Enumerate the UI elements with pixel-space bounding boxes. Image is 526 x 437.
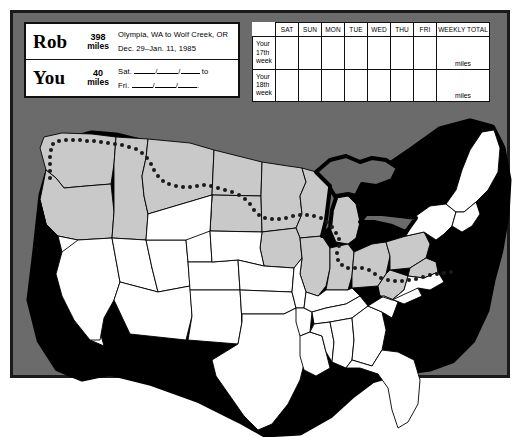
end-day-blank[interactable]: [155, 87, 176, 88]
row-label-week-17: Your 17th week: [253, 37, 276, 70]
cell-week17-thu[interactable]: [391, 37, 414, 70]
weekly-mileage-log: SAT SUN MON TUE WED THU FRI WEEKLY TOTAL…: [252, 22, 490, 102]
cell-week17-sat[interactable]: [276, 37, 299, 70]
rob-name: Rob: [33, 31, 67, 53]
cell-week17-tue[interactable]: [345, 37, 368, 70]
cell-week17-mon[interactable]: [322, 37, 345, 70]
slash-3: /: [153, 81, 155, 90]
week-17-line-1: Your: [256, 40, 270, 47]
rob-trip-details: Olympia, WA to Wolf Creek, OR Dec. 29–Ja…: [118, 24, 233, 59]
rider-info-box: Rob 398 miles Olympia, WA to Wolf Creek,…: [24, 22, 240, 98]
cell-week17-wed[interactable]: [368, 37, 391, 70]
cell-week18-fri[interactable]: [414, 69, 437, 102]
col-header-tue: TUE: [345, 23, 368, 37]
cell-week18-mon[interactable]: [322, 69, 345, 102]
rob-route: Olympia, WA to Wolf Creek, OR: [118, 30, 233, 39]
rob-row: Rob 398 miles Olympia, WA to Wolf Creek,…: [26, 24, 238, 60]
table-row: Your 17th week miles: [253, 37, 490, 70]
start-day-blank[interactable]: [157, 73, 178, 74]
end-month-blank[interactable]: [132, 87, 153, 88]
row-label-week-18: Your 18th week: [253, 69, 276, 102]
cell-week17-sun[interactable]: [299, 37, 322, 70]
end-year-blank[interactable]: [178, 87, 197, 88]
cell-week18-tue[interactable]: [345, 69, 368, 102]
col-header-mon: MON: [322, 23, 345, 37]
cell-week17-total[interactable]: miles: [437, 37, 490, 70]
rob-distance: 398 miles: [83, 31, 113, 51]
log-header-row: SAT SUN MON TUE WED THU FRI WEEKLY TOTAL: [253, 23, 490, 37]
cell-week18-wed[interactable]: [368, 69, 391, 102]
log-table: SAT SUN MON TUE WED THU FRI WEEKLY TOTAL…: [252, 22, 490, 102]
cell-week18-thu[interactable]: [391, 69, 414, 102]
start-date-label: Sat.: [118, 67, 132, 76]
col-header-weekly-total: WEEKLY TOTAL: [437, 23, 490, 37]
col-header-wed: WED: [368, 23, 391, 37]
slash-1: /: [155, 67, 157, 76]
you-distance: 40 miles: [83, 68, 113, 88]
week-18-line-1: Your: [256, 73, 270, 80]
week-18-line-3: week: [256, 89, 272, 96]
log-corner-cell: [253, 23, 276, 37]
you-date-fields: Sat. // to Fri. //.: [118, 60, 233, 96]
cell-week18-sun[interactable]: [299, 69, 322, 102]
start-year-blank[interactable]: [181, 73, 200, 74]
week-18-line-2: 18th: [256, 81, 269, 88]
end-date-label: Fri.: [118, 81, 129, 90]
you-name: You: [33, 67, 65, 89]
period-mark: .: [197, 81, 199, 90]
end-date-line: Fri. //.: [118, 81, 233, 90]
col-header-thu: THU: [391, 23, 414, 37]
to-word: to: [202, 67, 209, 76]
slash-2: /: [178, 67, 180, 76]
rob-dates: Dec. 29–Jan. 11, 1985: [118, 44, 233, 53]
you-row: You 40 miles Sat. // to Fri. //.: [26, 60, 238, 96]
table-row: Your 18th week miles: [253, 69, 490, 102]
cell-week17-fri[interactable]: [414, 37, 437, 70]
cell-week18-sat[interactable]: [276, 69, 299, 102]
week-17-line-3: week: [256, 57, 272, 64]
slash-4: /: [176, 81, 178, 90]
cell-week18-total[interactable]: miles: [437, 69, 490, 102]
col-header-fri: FRI: [414, 23, 437, 37]
col-header-sat: SAT: [276, 23, 299, 37]
start-date-line: Sat. // to: [118, 67, 233, 76]
rob-distance-unit: miles: [87, 41, 109, 51]
start-month-blank[interactable]: [134, 73, 155, 74]
col-header-sun: SUN: [299, 23, 322, 37]
you-distance-unit: miles: [87, 77, 109, 87]
week-17-line-2: 17th: [256, 49, 269, 56]
screenshot-root: Rob 398 miles Olympia, WA to Wolf Creek,…: [0, 0, 526, 437]
